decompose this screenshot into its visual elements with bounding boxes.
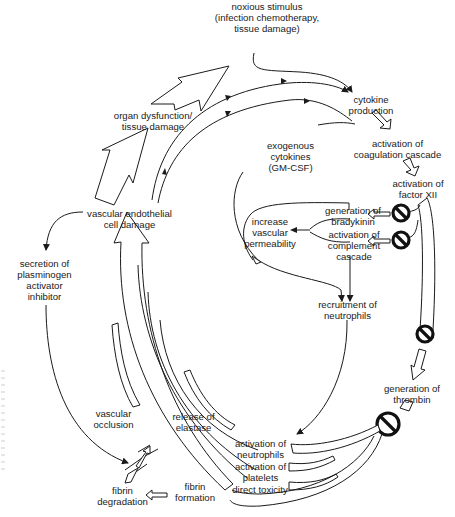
label-generation-thrombin: generation of thrombin bbox=[372, 383, 452, 405]
label-increase-permeability: increase vascular permeability bbox=[244, 216, 296, 249]
hollow-arrow-to-thrombin bbox=[411, 349, 426, 380]
label-activation-platelets: activation of platelets bbox=[228, 461, 293, 483]
stub-fibrin-degradation bbox=[125, 468, 138, 483]
arrowhead bbox=[162, 168, 167, 175]
arrow-endothelial-to-pai bbox=[46, 212, 83, 250]
label-activation-coagulation: activation of coagulation cascade bbox=[345, 138, 450, 160]
arc-to-coagulation bbox=[318, 123, 355, 125]
big-arrow-endothelial-to-organ bbox=[95, 128, 148, 205]
label-vascular-occlusion: vascular occlusion bbox=[86, 408, 141, 430]
big-arrow-organ-to-cytokine bbox=[151, 66, 229, 111]
hollow-arrowhead-exogenous bbox=[252, 256, 261, 264]
label-generation-bradykinin: generation of bradykinin bbox=[318, 205, 388, 227]
label-direct-toxicity: direct toxicity bbox=[226, 484, 294, 495]
label-activation-factor-xii: activation of factor XII bbox=[383, 178, 453, 200]
label-activation-neutrophils: activation of neutrophils bbox=[228, 438, 293, 460]
label-activation-complement: activation of complement cascade bbox=[319, 229, 389, 262]
label-release-elastase: release of elastase bbox=[166, 411, 221, 433]
arrowhead bbox=[225, 95, 231, 101]
arrowhead bbox=[304, 98, 310, 104]
label-organ-dysfunction: organ dysfunction/ tissue damage bbox=[112, 110, 194, 132]
inhibit-icon-thrombin bbox=[377, 413, 399, 435]
channel-to-platelets bbox=[289, 456, 335, 471]
hollow-arrow-coag-to-factorxii bbox=[403, 158, 419, 176]
label-recruitment-neutrophils: recruitment of neutrophils bbox=[310, 299, 385, 321]
label-fibrin-formation: fibrin formation bbox=[170, 481, 220, 503]
inhibit-icon-factorxii bbox=[417, 326, 433, 342]
arrow-recruitment-to-activation bbox=[297, 320, 347, 434]
inhibit-icon-complement bbox=[393, 232, 409, 248]
factor-xii-channel bbox=[418, 198, 435, 330]
label-exogenous-cytokines: exogenous cytokines (GM-CSF) bbox=[258, 140, 323, 173]
label-fibrin-degradation: fibrin degradation bbox=[95, 485, 150, 507]
label-vascular-endothelial-damage: vascular endothelial cell damage bbox=[82, 208, 177, 230]
inhibit-icon-bradykinin bbox=[393, 205, 409, 221]
label-noxious-stimulus: noxious stimulus (infection chemotherapy… bbox=[212, 1, 322, 34]
label-cytokine-production: cytokine production bbox=[346, 94, 396, 116]
label-secretion-pai: secretion of plasminogen activator inhib… bbox=[12, 258, 77, 302]
